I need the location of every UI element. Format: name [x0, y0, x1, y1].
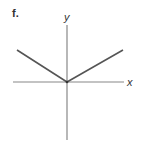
v-shaped-curve	[17, 50, 123, 82]
graph-canvas	[0, 0, 141, 152]
vertex-point	[66, 81, 69, 84]
